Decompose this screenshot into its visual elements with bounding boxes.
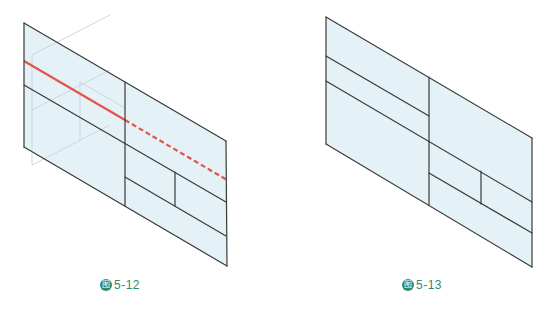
figure-badge-icon: 图 — [100, 279, 112, 291]
figure-caption-5-13: 图 5-13 — [402, 278, 442, 292]
figure-badge-icon: 图 — [402, 279, 414, 291]
right-panel — [125, 82, 227, 266]
figure-5-12 — [24, 15, 227, 266]
figure-number: 5-12 — [114, 278, 140, 292]
figure-caption-5-12: 图 5-12 — [100, 278, 140, 292]
figure-5-13 — [326, 17, 532, 267]
figure-number: 5-13 — [416, 278, 442, 292]
diagram-canvas — [0, 0, 551, 314]
